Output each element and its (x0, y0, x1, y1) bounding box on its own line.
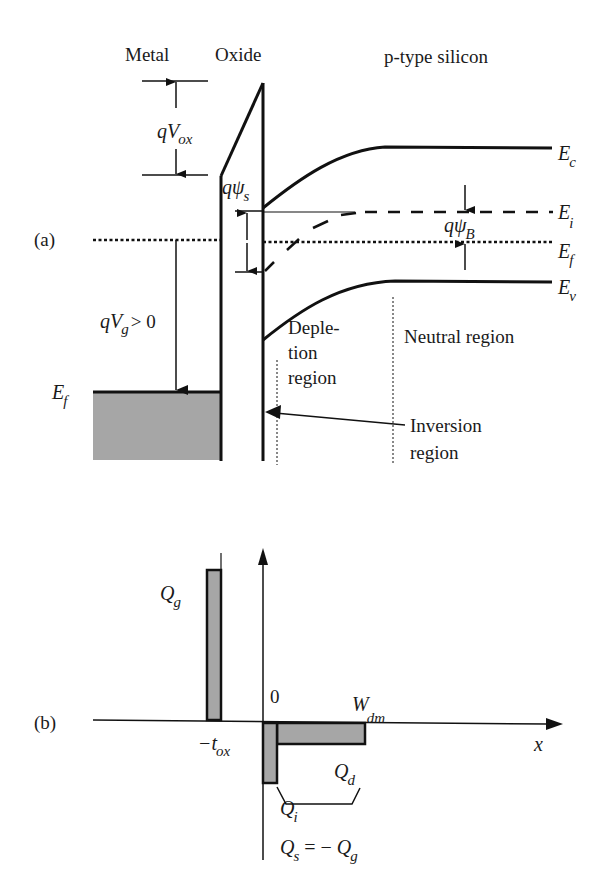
depletion-region-label: Deple- tion region (288, 317, 340, 388)
svg-text:qVox: qVox (157, 120, 193, 147)
svg-text:qψB: qψB (444, 214, 475, 242)
metal-label: Metal (125, 44, 169, 65)
panel-a: Metal Oxide p-type silicon (a) Ef qVox q… (34, 44, 576, 465)
svg-text:Deple-: Deple- (288, 317, 340, 338)
svg-text:tion: tion (288, 342, 318, 363)
qi-label: Qi (280, 797, 298, 825)
svg-text:region: region (410, 442, 459, 463)
qpsi-s-annotation: qψs (222, 176, 263, 272)
metal-filled-states (93, 392, 221, 460)
inversion-region-pointer: Inversion region (265, 405, 482, 463)
ec-label: Ec (557, 142, 576, 170)
metal-ef-label: Ef (51, 381, 69, 409)
origin-label: 0 (270, 686, 280, 707)
x-axis-arrowhead (546, 718, 563, 730)
oxide-label: Oxide (215, 44, 261, 65)
gate-charge-qg-bar (207, 570, 221, 720)
tox-label: −tox (198, 732, 231, 759)
svg-text:qVg> 0: qVg> 0 (100, 310, 156, 337)
mos-band-diagram-figure: Metal Oxide p-type silicon (a) Ef qVox q… (0, 0, 614, 886)
neutral-region-label: Neutral region (404, 326, 515, 347)
svg-text:region: region (288, 367, 337, 388)
qpsi-b-annotation: qψB (444, 185, 475, 270)
ef-label: Ef (557, 240, 575, 268)
panel-b: (b) x 0 Qg −tox Qd Qi Wdm Qs = − Qg (34, 548, 563, 864)
oxide-conduction-band-slope (221, 83, 263, 176)
panel-b-label: (b) (34, 712, 56, 734)
depletion-charge-qd-bar (277, 723, 365, 744)
conduction-band-ec (263, 147, 552, 208)
silicon-label: p-type silicon (384, 46, 488, 67)
qvg-annotation: qVg> 0 (100, 240, 176, 390)
svg-text:qψs: qψs (222, 176, 249, 204)
inversion-charge-qi-bar (263, 723, 277, 783)
ei-label: Ei (557, 201, 573, 231)
svg-text:Ef: Ef (51, 381, 69, 409)
qs-equation: Qs = − Qg (280, 836, 358, 864)
qg-label: Qg (160, 582, 181, 610)
ev-label: Ev (557, 276, 576, 304)
svg-text:Inversion: Inversion (410, 415, 482, 436)
x-axis-label: x (533, 733, 543, 755)
charge-axis-arrowhead (258, 548, 268, 565)
panel-a-label: (a) (34, 229, 55, 251)
qd-label: Qd (334, 760, 355, 788)
wdm-label: Wdm (352, 693, 385, 726)
qvox-annotation: qVox (142, 81, 208, 175)
